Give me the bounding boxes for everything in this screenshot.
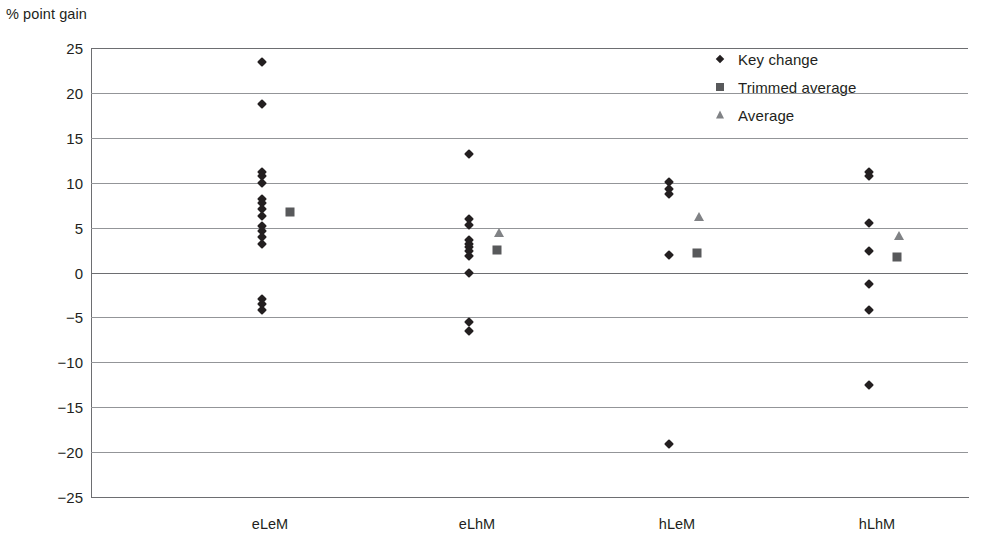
triangle-marker-icon xyxy=(712,105,738,125)
y-tick-label: 15 xyxy=(5,129,83,146)
data-point-diamond xyxy=(464,149,474,159)
data-point-diamond xyxy=(864,279,874,289)
data-point-diamond xyxy=(664,189,674,199)
x-axis-line xyxy=(91,497,969,498)
y-tick-label: −25 xyxy=(5,489,83,506)
y-tick-label: −10 xyxy=(5,354,83,371)
y-tick-label: −15 xyxy=(5,399,83,416)
gridline xyxy=(91,362,968,363)
gridline xyxy=(91,183,968,184)
data-point-diamond xyxy=(257,178,267,188)
data-point-square xyxy=(893,253,902,262)
x-tick-label-hlhm: hLhM xyxy=(859,516,895,532)
data-point-diamond xyxy=(257,57,267,67)
data-point-diamond xyxy=(864,305,874,315)
y-tick-label: 25 xyxy=(5,40,83,57)
data-point-diamond xyxy=(864,380,874,390)
data-point-triangle xyxy=(694,212,704,221)
legend-label: Key change xyxy=(738,51,818,68)
data-point-square xyxy=(693,248,702,257)
x-tick-label-elhm: eLhM xyxy=(459,516,495,532)
data-point-diamond xyxy=(257,99,267,109)
y-tick-label: 0 xyxy=(5,264,83,281)
data-point-diamond xyxy=(864,218,874,228)
legend-label: Average xyxy=(738,107,794,124)
y-tick-label: 10 xyxy=(5,174,83,191)
data-point-diamond xyxy=(864,246,874,256)
y-tick-label: −5 xyxy=(5,309,83,326)
data-point-diamond xyxy=(257,211,267,221)
y-axis-tick-labels: 2520151050−5−10−15−20−25 xyxy=(0,0,83,553)
chart-legend: Key changeTrimmed averageAverage xyxy=(712,45,912,129)
y-tick-label: 20 xyxy=(5,84,83,101)
data-point-diamond xyxy=(464,268,474,278)
legend-label: Trimmed average xyxy=(738,79,856,96)
data-point-triangle xyxy=(894,231,904,240)
data-point-diamond xyxy=(464,326,474,336)
gridline xyxy=(91,452,968,453)
scatter-chart: % point gain 2520151050−5−10−15−20−25 eL… xyxy=(0,0,982,553)
data-point-diamond xyxy=(664,250,674,260)
data-point-triangle xyxy=(494,228,504,237)
y-tick-label: 5 xyxy=(5,219,83,236)
legend-item-trimmed-average[interactable]: Trimmed average xyxy=(712,73,912,101)
x-tick-label-hlem: hLeM xyxy=(659,516,695,532)
diamond-marker-icon xyxy=(712,49,738,69)
data-point-diamond xyxy=(257,305,267,315)
data-point-diamond xyxy=(664,439,674,449)
gridline xyxy=(91,273,968,274)
gridline xyxy=(91,138,968,139)
square-marker-icon xyxy=(712,77,738,97)
legend-item-key-change[interactable]: Key change xyxy=(712,45,912,73)
data-point-square xyxy=(286,208,295,217)
gridline xyxy=(91,228,968,229)
data-point-diamond xyxy=(257,239,267,249)
gridline xyxy=(91,407,968,408)
data-point-square xyxy=(493,246,502,255)
x-tick-label-elem: eLeM xyxy=(252,516,288,532)
legend-item-average[interactable]: Average xyxy=(712,101,912,129)
data-point-diamond xyxy=(464,251,474,261)
gridline xyxy=(91,317,968,318)
y-tick-label: −20 xyxy=(5,444,83,461)
